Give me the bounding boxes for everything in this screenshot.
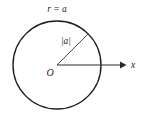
radius-magnitude-label: |a| bbox=[61, 36, 71, 46]
x-axis-arrowhead bbox=[120, 62, 127, 69]
diagram-canvas: r = a |a| O x bbox=[0, 0, 143, 117]
x-axis-label: x bbox=[130, 60, 136, 70]
circle-diagram-figure: r = a |a| O x bbox=[0, 0, 143, 117]
circle-equation-label: r = a bbox=[47, 4, 67, 14]
origin-label: O bbox=[46, 67, 53, 78]
